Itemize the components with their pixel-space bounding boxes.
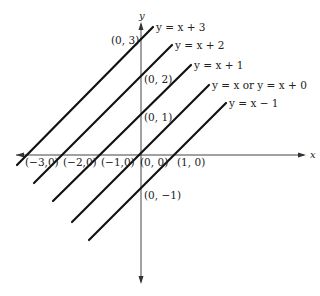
x-axis-label: x (310, 149, 316, 160)
y-axis-down-arrow-icon (139, 276, 144, 284)
line-equation-label: y = x + 3 (155, 21, 205, 33)
graph-line (53, 65, 191, 201)
line-equation-label: y = x + 1 (193, 59, 243, 71)
y-axis-up-arrow-icon (139, 22, 144, 30)
line-equation-label: y = x or y = x + 0 (211, 79, 307, 91)
intercept-label: (0, 3) (111, 34, 139, 46)
intercept-label: (−2,0) (63, 156, 97, 168)
line-family: y = x + 3y = x + 2y = x + 1y = x or y = … (17, 21, 307, 240)
intercept-label: (−1,0) (101, 156, 135, 168)
y-axis-label: y (138, 10, 145, 21)
intercept-label: (0, 2) (144, 73, 172, 85)
intercept-label: (0, −1) (144, 189, 181, 201)
coordinate-diagram: x y y = x + 3y = x + 2y = x + 1y = x or … (0, 0, 320, 296)
intercept-label: (−3,0) (25, 156, 59, 168)
line-equation-label: y = x + 2 (174, 39, 224, 51)
intercept-label: (0, 1) (144, 111, 172, 123)
graph-line (17, 27, 153, 165)
x-axis-left-arrow-icon (16, 153, 24, 158)
intercept-label: (1, 0) (177, 156, 205, 168)
x-axis-right-arrow-icon (298, 153, 306, 158)
line-equation-label: y = x − 1 (228, 97, 278, 109)
intercept-label: (0, 0) (140, 156, 168, 168)
graph-line (89, 103, 226, 240)
point-labels: (0, 3)(0, 2)(0, 1)(0, −1)(−3,0)(−2,0)(−1… (25, 34, 205, 201)
